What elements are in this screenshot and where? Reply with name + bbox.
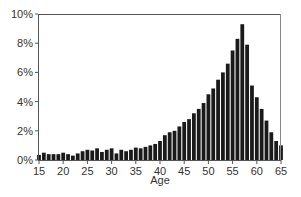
bar-age-40: [158, 141, 162, 160]
x-tick-label: 20: [57, 165, 69, 177]
bar-age-56: [236, 39, 240, 160]
y-tick-label: 2%: [17, 125, 33, 137]
age-distribution-chart: 0%2%4%6%8%10% 1520253035404550556065 Age: [0, 0, 301, 197]
bar-age-59: [250, 86, 254, 160]
bar-age-42: [168, 132, 172, 160]
bar-age-52: [216, 80, 220, 160]
bar-age-35: [134, 148, 138, 160]
bar-age-46: [187, 119, 191, 160]
bar-age-27: [95, 148, 99, 160]
x-tick-label: 25: [81, 165, 93, 177]
bar-age-30: [110, 148, 114, 160]
bar-age-54: [226, 64, 230, 160]
bar-age-64: [274, 141, 278, 160]
bar-age-44: [177, 126, 181, 160]
x-tick-label: 65: [275, 165, 287, 177]
x-tick-label: 50: [202, 165, 214, 177]
bar-age-24: [81, 151, 85, 160]
bar-age-38: [148, 145, 152, 160]
bar-age-19: [56, 154, 60, 160]
y-axis: 0%2%4%6%8%10%: [11, 8, 38, 166]
bar-age-17: [47, 154, 51, 160]
bar-age-23: [76, 153, 80, 160]
bar-age-43: [173, 131, 177, 160]
x-tick-label: 15: [33, 165, 45, 177]
bar-age-32: [119, 150, 123, 160]
bar-age-60: [255, 97, 259, 160]
y-tick-label: 8%: [17, 37, 33, 49]
bar-age-20: [61, 153, 65, 160]
bar-age-48: [197, 109, 201, 160]
bar-age-36: [139, 148, 143, 160]
x-axis-title: Age: [150, 174, 170, 186]
bar-age-63: [269, 132, 273, 160]
bar-age-22: [71, 156, 75, 160]
x-tick-label: 35: [130, 165, 142, 177]
y-tick-label: 4%: [17, 96, 33, 108]
bar-age-49: [202, 103, 206, 160]
bar-age-33: [124, 151, 128, 160]
bar-age-47: [192, 113, 196, 160]
bar-age-37: [144, 147, 148, 160]
y-tick-label: 0%: [17, 154, 33, 166]
bar-age-41: [163, 135, 167, 160]
plot-area: [38, 14, 281, 160]
y-tick-label: 6%: [17, 66, 33, 78]
bar-age-25: [86, 150, 90, 160]
bar-age-28: [100, 152, 104, 160]
bar-age-62: [265, 121, 269, 160]
bar-age-57: [240, 24, 244, 160]
bar-age-39: [153, 144, 157, 160]
bar-age-53: [221, 72, 225, 160]
x-tick-label: 60: [251, 165, 263, 177]
x-tick-label: 30: [105, 165, 117, 177]
y-tick-label: 10%: [11, 8, 33, 20]
bar-age-21: [66, 154, 70, 160]
bar-age-61: [260, 109, 264, 160]
bar-age-16: [42, 153, 46, 160]
bar-age-26: [90, 151, 94, 160]
bar-age-55: [231, 51, 235, 161]
x-tick-label: 45: [178, 165, 190, 177]
bar-age-34: [129, 150, 133, 160]
bar-age-51: [211, 88, 215, 160]
bar-age-50: [207, 94, 211, 160]
bar-age-58: [245, 45, 249, 160]
bar-age-29: [105, 150, 109, 160]
x-tick-label: 55: [226, 165, 238, 177]
bar-age-31: [115, 153, 119, 160]
bar-age-18: [52, 154, 56, 160]
bar-age-45: [182, 122, 186, 160]
